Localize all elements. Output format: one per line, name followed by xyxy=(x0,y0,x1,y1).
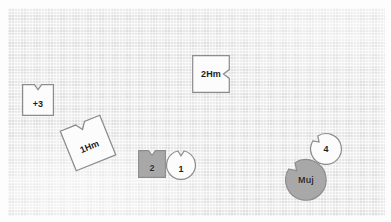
notched-square-icon xyxy=(22,84,54,116)
notched-circle-icon xyxy=(166,150,196,180)
shape-canvas: +3 1Hm 2Hm 2 xyxy=(0,0,391,222)
shape-token-1hm[interactable]: 1Hm xyxy=(66,121,110,165)
canvas-frame-top xyxy=(0,0,391,8)
shape-token-plus3[interactable]: +3 xyxy=(22,84,54,116)
notched-square-icon xyxy=(59,114,116,171)
notched-square-icon xyxy=(138,150,166,178)
canvas-frame-bottom xyxy=(0,216,391,222)
shape-token-2[interactable]: 2 xyxy=(138,150,166,178)
notched-square-icon xyxy=(192,55,230,93)
canvas-frame-left xyxy=(0,0,8,222)
shape-token-1[interactable]: 1 xyxy=(166,150,196,180)
notched-circle-icon xyxy=(303,126,348,171)
canvas-frame-right xyxy=(385,0,391,222)
shape-token-4[interactable]: 4 xyxy=(310,133,342,165)
shape-token-2hm[interactable]: 2Hm xyxy=(192,55,230,93)
